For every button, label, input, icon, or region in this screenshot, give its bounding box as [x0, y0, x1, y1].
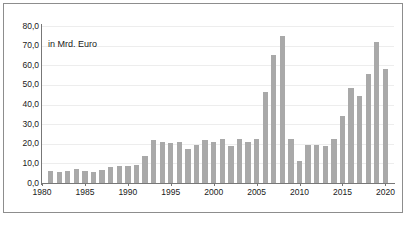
bar [117, 166, 122, 183]
bar [177, 142, 182, 183]
x-axis-tick-mark [42, 183, 43, 186]
bar [331, 139, 336, 183]
bar [99, 170, 104, 183]
y-axis-tick-label: 50,0 [9, 80, 39, 89]
gridline [42, 85, 394, 86]
x-axis-tick-mark [385, 183, 386, 186]
y-axis-tick-label: 10,0 [9, 159, 39, 168]
bar [305, 145, 310, 183]
x-axis-tick-mark [171, 183, 172, 186]
bar [82, 171, 87, 183]
bar [348, 88, 353, 183]
bar [65, 171, 70, 183]
bar [314, 145, 319, 183]
bar [168, 143, 173, 183]
gridline [42, 26, 394, 27]
bar [263, 92, 268, 183]
bar [366, 74, 371, 183]
bar [340, 116, 345, 183]
x-axis-tick-mark [85, 183, 86, 186]
bar [185, 149, 190, 183]
bar [220, 139, 225, 183]
x-axis-tick-label: 1990 [118, 187, 137, 197]
x-axis-tick-mark [342, 183, 343, 186]
bar [323, 146, 328, 183]
bar [134, 165, 139, 183]
y-axis-tick-label: 80,0 [9, 22, 39, 31]
bar [108, 167, 113, 183]
bar [297, 161, 302, 183]
plot-area [42, 26, 394, 183]
bar [357, 96, 362, 183]
x-axis-tick-label: 1995 [161, 187, 180, 197]
gridline [42, 105, 394, 106]
x-axis-tick-mark [257, 183, 258, 186]
y-axis-tick-label: 60,0 [9, 61, 39, 70]
bar [57, 172, 62, 183]
chart-figure: 0,010,020,030,040,050,060,070,080,0 1980… [0, 0, 409, 225]
bar [374, 42, 379, 183]
x-axis-tick-label: 1980 [33, 187, 52, 197]
x-axis-tick-label: 2010 [290, 187, 309, 197]
bar [91, 172, 96, 183]
bar [48, 171, 53, 183]
bar [271, 55, 276, 183]
bar [254, 139, 259, 183]
x-axis-tick-label: 2020 [376, 187, 395, 197]
x-axis-tick-mark [300, 183, 301, 186]
gridline [42, 65, 394, 66]
x-axis-tick-label: 2015 [333, 187, 352, 197]
x-axis-tick-label: 1985 [75, 187, 94, 197]
x-axis-tick-mark [128, 183, 129, 186]
unit-annotation: in Mrd. Euro [48, 39, 97, 49]
y-axis-tick-label: 20,0 [9, 139, 39, 148]
x-axis-tick-label: 2005 [247, 187, 266, 197]
bar [202, 140, 207, 183]
y-axis-tick-label: 70,0 [9, 41, 39, 50]
bar [194, 145, 199, 183]
x-axis-tick-label: 2000 [204, 187, 223, 197]
y-axis-tick-label: 40,0 [9, 100, 39, 109]
bar [151, 140, 156, 183]
y-axis-tick-label: 30,0 [9, 120, 39, 129]
y-axis-labels: 0,010,020,030,040,050,060,070,080,0 [7, 26, 39, 183]
y-axis-line [41, 24, 42, 185]
bar [237, 139, 242, 183]
bar [228, 146, 233, 183]
bar [245, 142, 250, 183]
x-axis-tick-mark [214, 183, 215, 186]
bar [74, 169, 79, 183]
bar [142, 156, 147, 183]
bar [383, 69, 388, 183]
bar [160, 142, 165, 183]
bar [280, 36, 285, 183]
bar [288, 139, 293, 183]
x-axis-labels: 198019851990199520002005201020152020 [42, 187, 394, 201]
bar [125, 166, 130, 183]
bar [211, 142, 216, 183]
chart-frame: 0,010,020,030,040,050,060,070,080,0 1980… [3, 3, 403, 213]
